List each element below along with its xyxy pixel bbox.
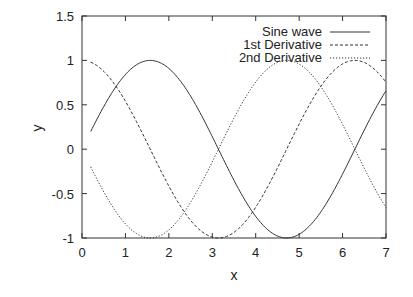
- x-tick-label: 3: [209, 245, 216, 260]
- x-tick-label: 1: [122, 245, 129, 260]
- x-tick-label: 7: [382, 245, 389, 260]
- y-tick-label: 0: [67, 142, 74, 157]
- series-line: [91, 60, 386, 238]
- y-tick-label: 1: [67, 53, 74, 68]
- x-tick-label: 0: [78, 245, 85, 260]
- x-tick-label: 5: [296, 245, 303, 260]
- legend: Sine wave1st Derivative2nd Derivative: [239, 24, 370, 65]
- x-tick-label: 4: [252, 245, 259, 260]
- y-tick-label: 0.5: [56, 98, 74, 113]
- y-tick-label: 1.5: [56, 9, 74, 24]
- x-tick-label: 2: [165, 245, 172, 260]
- y-tick-label: -0.5: [52, 187, 74, 202]
- plot-curves: [91, 60, 386, 238]
- y-axis-label: y: [29, 125, 45, 132]
- legend-label: 2nd Derivative: [239, 50, 322, 65]
- series-line: [91, 60, 386, 238]
- plot-frame: [82, 16, 386, 238]
- y-tick-label: -1: [62, 231, 74, 246]
- x-tick-label: 6: [339, 245, 346, 260]
- axis-ticks: 01234567-1-0.500.511.5: [52, 9, 390, 260]
- sine-derivatives-chart: 01234567-1-0.500.511.5 x y Sine wave1st …: [0, 0, 413, 297]
- x-axis-label: x: [231, 267, 238, 283]
- series-line: [91, 60, 386, 238]
